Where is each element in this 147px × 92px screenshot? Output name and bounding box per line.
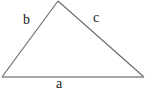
side-label-a: a: [56, 77, 62, 91]
triangle-side-right: [58, 1, 144, 77]
triangle-figure: b c a: [0, 0, 147, 92]
side-label-c: c: [93, 11, 99, 25]
side-label-b: b: [23, 13, 30, 27]
triangle-side-left: [2, 1, 58, 77]
